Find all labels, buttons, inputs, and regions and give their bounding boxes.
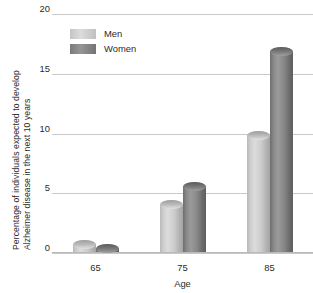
y-axis-title-line-1: Percentage of individuals expected to de… <box>11 70 21 250</box>
x-axis-line <box>52 252 313 253</box>
x-axis-tick-label-85: 85 <box>240 262 300 273</box>
x-axis-tick-label-65: 65 <box>66 262 126 273</box>
legend: MenWomen <box>70 27 136 57</box>
legend-item-men: Men <box>70 27 136 40</box>
bar-men-age-75 <box>160 204 183 252</box>
bar-body <box>247 135 270 252</box>
bar-body <box>160 204 183 252</box>
bar-body <box>270 51 293 252</box>
legend-swatch-men <box>70 29 96 39</box>
bar-women-age-65 <box>96 248 119 252</box>
gridline <box>52 14 313 15</box>
bar-top-cap <box>160 200 183 209</box>
gridline <box>52 253 313 254</box>
y-axis-title-line-2: Alzheimer disease in the next 10 years <box>22 99 32 250</box>
bar-men-age-85 <box>247 135 270 252</box>
legend-item-women: Women <box>70 42 136 55</box>
bar-top-cap <box>73 240 96 249</box>
y-axis-tick-label: 10 <box>10 123 50 134</box>
legend-label-men: Men <box>104 28 122 39</box>
bar-women-age-85 <box>270 51 293 252</box>
legend-label-women: Women <box>104 43 136 54</box>
y-axis-tick-label: 0 <box>10 242 50 253</box>
y-axis-tick-label: 5 <box>10 182 50 193</box>
legend-swatch-women <box>70 44 96 54</box>
bar-top-cap <box>247 131 270 140</box>
bar-chart: Percentage of individuals expected to de… <box>0 0 313 293</box>
y-axis-tick-label: 20 <box>10 3 50 14</box>
y-axis-tick-label: 15 <box>10 63 50 74</box>
bar-men-age-65 <box>73 244 96 252</box>
x-axis-title: Age <box>52 278 313 289</box>
bar-women-age-75 <box>183 186 206 252</box>
x-axis-tick-label-75: 75 <box>153 262 213 273</box>
bar-body <box>183 186 206 252</box>
